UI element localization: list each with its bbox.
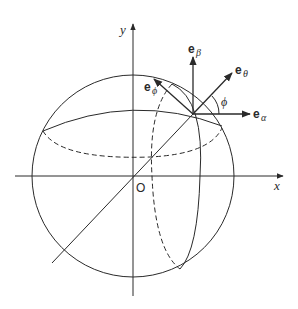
e-beta-label: e β: [188, 42, 201, 58]
phi-angle-label: ϕ: [221, 95, 227, 109]
x-axis-label: x: [273, 178, 280, 193]
svg-text:e: e: [144, 80, 151, 94]
svg-text:θ: θ: [243, 68, 248, 79]
svg-text:e: e: [188, 42, 195, 56]
e-alpha-label: e α: [253, 107, 267, 123]
e-theta-label: e θ: [235, 63, 248, 79]
svg-text:α: α: [261, 112, 267, 123]
e-phi-label: e ϕ: [144, 80, 157, 96]
svg-text:ϕ: ϕ: [152, 85, 157, 96]
y-axis-label: y: [118, 22, 126, 37]
svg-text:e: e: [235, 63, 242, 77]
origin-label: O: [136, 181, 145, 195]
radial-line: [52, 114, 193, 263]
svg-text:β: β: [195, 47, 201, 58]
svg-text:e: e: [253, 107, 260, 121]
sphere-diagram: y x O e β e θ e α e ϕ ϕ: [0, 0, 298, 309]
phi-angle-arc: [212, 96, 219, 114]
